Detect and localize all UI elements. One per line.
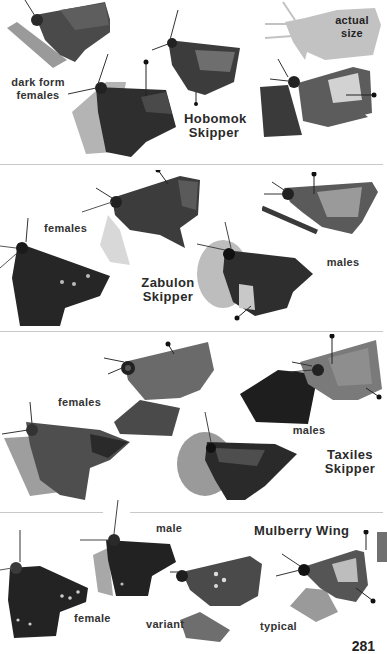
label-mulberry-typical: typical (260, 620, 294, 633)
section-thumb-tab (377, 532, 387, 562)
taxiles-female-photo-open (0, 400, 132, 502)
label-mulberry-female: female (74, 612, 110, 625)
label-actual-size: actual size (330, 14, 374, 40)
label-mulberry-variant: variant (146, 618, 182, 631)
hobomok-male-photo-top (150, 10, 250, 106)
title-hobomok-skipper: Hobomok Skipper (184, 112, 244, 140)
title-taxiles-skipper: Taxiles Skipper (322, 448, 378, 476)
label-dark-form-females: dark form females (10, 76, 66, 102)
mulberry-male-photo (78, 500, 178, 598)
hobomok-male-photo-side (258, 55, 383, 140)
label-zabulon-males: males (326, 256, 360, 269)
divider-2 (0, 331, 383, 332)
zabulon-female-photo-open (0, 218, 118, 330)
label-mulberry-male: male (156, 522, 182, 535)
mulberry-typical-photo (276, 530, 384, 630)
divider-1 (0, 164, 383, 165)
taxiles-male-photo-open (175, 410, 301, 502)
title-zabulon-skipper: Zabulon Skipper (140, 276, 196, 304)
zabulon-male-photo-open (195, 222, 315, 322)
page-number: 281 (352, 638, 375, 654)
